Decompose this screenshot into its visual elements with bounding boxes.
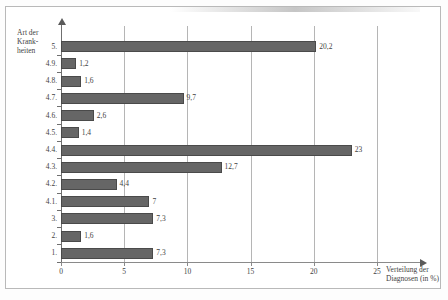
y-axis-arrow-icon [58,18,66,25]
scan-artifact [170,7,420,12]
bar [61,127,79,138]
x-axis-tick-label: 20 [310,267,318,276]
x-axis-tick-label: 10 [184,267,192,276]
category-label: 2. [20,231,57,240]
y-axis-tick [57,262,61,263]
bar-value-label: 7,3 [156,248,165,257]
category-label: 4.9. [20,59,57,68]
bar [61,41,316,52]
bar-value-label: 7 [152,197,156,206]
bar-value-label: 20,2 [319,42,332,51]
category-label: 1. [20,248,57,257]
category-label: 4.8. [20,76,57,85]
y-axis-tick [57,141,61,142]
x-axis-tick [251,262,252,266]
x-axis-tick [124,262,125,266]
bar [61,76,81,87]
bar-value-label: 1,6 [84,76,93,85]
category-label: 5. [20,42,57,51]
x-axis-tick-label: 5 [122,267,126,276]
bar [61,196,149,207]
y-axis-tick [57,210,61,211]
category-label: 4.5. [20,128,57,137]
bar-value-label: 1,2 [79,59,88,68]
gridline [377,26,378,262]
category-label: 4.3. [20,162,57,171]
x-axis-tick [377,262,378,266]
x-axis-tick-label: 25 [373,267,381,276]
bar [61,248,153,259]
bar-value-label: 12,7 [225,162,238,171]
y-axis-tick [57,106,61,107]
category-label: 4.4. [20,145,57,154]
y-axis-tick [57,193,61,194]
bar [61,93,184,104]
bar [61,58,76,69]
bar-value-label: 23 [355,145,363,154]
bar [61,231,81,242]
category-label: 4.1. [20,197,57,206]
bar [61,213,153,224]
bar [61,179,117,190]
x-axis-tick-label: 15 [247,267,255,276]
bar [61,145,352,156]
y-axis-tick [57,158,61,159]
category-label: 4.6. [20,111,57,120]
y-axis-tick [57,72,61,73]
y-axis-tick [57,244,61,245]
bar-value-label: 1,6 [84,231,93,240]
y-axis-tick [57,175,61,176]
category-label: 3. [20,214,57,223]
bar-value-label: 2,6 [97,111,106,120]
x-axis-tick [314,262,315,266]
x-axis-line [61,262,421,263]
bar-value-label: 7,3 [156,214,165,223]
y-axis-tick [57,227,61,228]
chart-page: Art der Krank- heiten 0510152025 20,21,2… [0,0,448,300]
y-axis-tick [57,89,61,90]
bar-value-label: 4,4 [120,179,129,188]
bar [61,162,222,173]
y-axis-tick [57,124,61,125]
category-label: 4.2. [20,179,57,188]
x-axis-label: Verteilung der Diagnosen (in %) [386,265,442,283]
x-axis-tick [61,262,62,266]
bar-value-label: 1,4 [82,128,91,137]
y-axis-tick [57,55,61,56]
x-axis-tick-label: 0 [59,267,63,276]
bar-value-label: 9,7 [187,93,196,102]
x-axis-tick [187,262,188,266]
category-label: 4.7. [20,93,57,102]
bar [61,110,94,121]
